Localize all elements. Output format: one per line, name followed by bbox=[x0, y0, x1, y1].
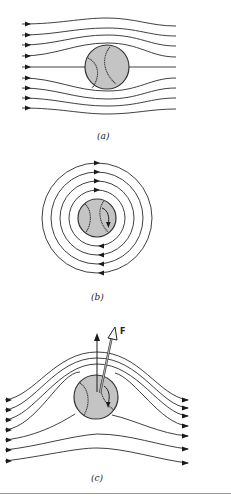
arrowheads-c-right bbox=[182, 398, 189, 466]
panel-a-label: (a) bbox=[97, 131, 110, 141]
panel-b-label: (b) bbox=[91, 292, 104, 302]
force-label: F bbox=[120, 327, 125, 336]
baseball-b bbox=[78, 199, 116, 237]
baseball-c bbox=[74, 375, 118, 419]
magnus-effect-diagram: (a) (b) bbox=[0, 0, 231, 497]
panel-c: F (c) bbox=[5, 327, 189, 483]
panel-b: (b) bbox=[42, 161, 152, 303]
panel-a: (a) bbox=[22, 18, 176, 141]
arrowheads-b-bottom bbox=[98, 244, 104, 276]
arrowheads-c-left bbox=[6, 398, 12, 464]
baseball-a bbox=[85, 45, 129, 89]
panel-c-label: (c) bbox=[91, 473, 104, 483]
arrowheads-b-top bbox=[94, 161, 100, 193]
arrowheads-a bbox=[25, 22, 31, 111]
